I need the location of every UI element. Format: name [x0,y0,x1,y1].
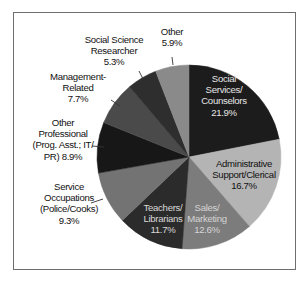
slice-label-service-occupations-police-cooks: ServiceOccupations(Police/Cooks)9.3% [40,181,98,226]
leader-line-social-science-researcher [139,71,143,79]
pie-chart: SocialServices/Counselors21.9%Administra… [0,0,308,281]
slice-label-social-science-researcher: Social ScienceResearcher5.3% [85,34,144,67]
slice-label-other: Other5.9% [161,26,185,48]
slice-label-other-professional-prog-asst-it-pr: OtherProfessional(Prog. Asst.; IT/PR) 8.… [32,117,94,162]
slice-label-management-related: Management-Related7.7% [50,71,106,104]
leader-line-other [172,57,173,65]
